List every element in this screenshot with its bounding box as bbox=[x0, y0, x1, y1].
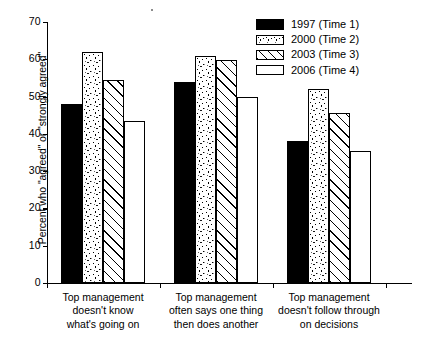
legend-label: 2000 (Time 2) bbox=[291, 33, 359, 46]
x-tick-mark bbox=[273, 283, 274, 288]
y-tick-mark bbox=[43, 97, 48, 98]
category-label-3: Top management doesn't follow through on… bbox=[259, 291, 399, 331]
legend-label: 2006 (Time 4) bbox=[291, 64, 359, 77]
y-tick-mark bbox=[43, 22, 48, 23]
y-tick-mark bbox=[43, 208, 48, 209]
y-tick-mark bbox=[43, 246, 48, 247]
legend-item-4[interactable]: 2006 (Time 4) bbox=[256, 63, 416, 78]
scan-artifact-speck bbox=[151, 9, 153, 11]
bar-chart: Percent who "agreed" or "strongly agreed… bbox=[0, 0, 424, 343]
legend-swatch-hatch-icon bbox=[256, 50, 284, 61]
legend-item-3[interactable]: 2003 (Time 3) bbox=[256, 47, 416, 62]
bar-2003-time-3--group-3 bbox=[329, 113, 350, 283]
legend-label: 1997 (Time 1) bbox=[291, 18, 359, 31]
y-tick-label: 40 bbox=[29, 127, 41, 140]
legend-swatch-stipple-icon bbox=[256, 35, 284, 46]
legend-label: 2003 (Time 3) bbox=[291, 48, 359, 61]
chart-legend: 1997 (Time 1)2000 (Time 2)2003 (Time 3)2… bbox=[256, 17, 416, 78]
bar-2000-time-2--group-2 bbox=[195, 56, 216, 283]
bar-2003-time-3--group-2 bbox=[216, 60, 237, 283]
bar-2006-time-4--group-2 bbox=[237, 97, 258, 283]
y-axis-line bbox=[47, 22, 48, 283]
bar-1997-time-1--group-3 bbox=[287, 141, 308, 283]
y-tick-label: 50 bbox=[29, 90, 41, 103]
legend-swatch-empty-icon bbox=[256, 65, 284, 76]
x-axis-line bbox=[47, 283, 412, 284]
y-tick-label: 10 bbox=[29, 239, 41, 252]
bar-2000-time-2--group-3 bbox=[308, 89, 329, 283]
x-tick-mark bbox=[47, 283, 48, 288]
bar-2003-time-3--group-1 bbox=[103, 80, 124, 283]
y-tick-mark bbox=[43, 134, 48, 135]
bar-2006-time-4--group-3 bbox=[350, 151, 371, 283]
y-tick-label: 70 bbox=[29, 15, 41, 28]
legend-item-1[interactable]: 1997 (Time 1) bbox=[256, 17, 416, 32]
y-tick-mark bbox=[43, 171, 48, 172]
y-tick-mark bbox=[43, 59, 48, 60]
y-tick-label: 60 bbox=[29, 52, 41, 65]
bar-2006-time-4--group-1 bbox=[124, 121, 145, 283]
legend-item-2[interactable]: 2000 (Time 2) bbox=[256, 32, 416, 47]
bar-2000-time-2--group-1 bbox=[82, 52, 103, 283]
y-tick-label: 0 bbox=[35, 276, 41, 289]
y-tick-label: 30 bbox=[29, 164, 41, 177]
legend-swatch-solid-icon bbox=[256, 19, 284, 30]
bar-1997-time-1--group-1 bbox=[61, 104, 82, 283]
x-tick-mark bbox=[386, 283, 387, 288]
x-tick-mark bbox=[160, 283, 161, 288]
y-tick-label: 20 bbox=[29, 201, 41, 214]
bar-1997-time-1--group-2 bbox=[174, 82, 195, 283]
